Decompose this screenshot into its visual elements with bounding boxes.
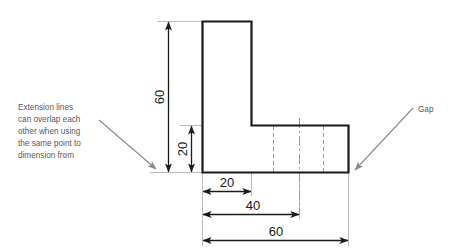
dimension-label-horizontal-20: 20 [220, 175, 234, 190]
leader-line-gap-note [355, 108, 413, 170]
dimension-vertical-60: 60 [152, 22, 169, 172]
extension-lines-note-line-1: Extension lines [18, 103, 73, 112]
extension-lines-note-line-4: the same point to [18, 139, 81, 148]
extension-lines-note-line-5: dimension from [18, 151, 74, 160]
technical-drawing-canvas: 60 20 20 40 60 Extension lines can overl… [0, 0, 457, 251]
dimension-horizontal-60: 60 [203, 224, 348, 241]
dimension-label-vertical-20: 20 [175, 142, 190, 156]
extension-lines-note-group: Extension lines can overlap each other w… [18, 103, 156, 169]
gap-note-group: Gap [355, 105, 434, 170]
dimension-label-horizontal-60: 60 [269, 224, 283, 239]
extension-lines-note-line-3: other when using [18, 127, 81, 136]
hidden-lines-group [274, 118, 324, 215]
dimension-label-vertical-60: 60 [152, 90, 167, 104]
dimension-horizontal-20: 20 [203, 175, 251, 192]
part-outline [203, 22, 349, 173]
dimension-horizontal-40: 40 [203, 198, 299, 215]
leader-line-extension-note [99, 120, 156, 169]
dimension-vertical-20: 20 [175, 126, 192, 172]
extension-lines-note-line-2: can overlap each [18, 115, 81, 124]
gap-note-label: Gap [418, 105, 434, 114]
dimension-label-horizontal-40: 40 [246, 198, 260, 213]
